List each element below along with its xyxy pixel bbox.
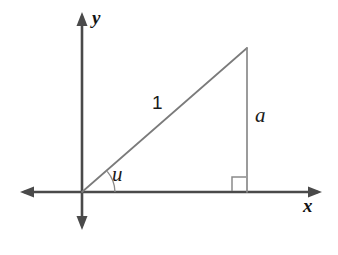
y-axis-label: y <box>92 8 100 27</box>
right-angle-marker <box>232 177 246 191</box>
y-axis-top-arrowhead <box>77 12 88 26</box>
geometry-figure: y x a u 1 <box>0 0 338 255</box>
y-axis-bottom-arrowhead <box>77 216 88 230</box>
hypotenuse-length-label: 1 <box>152 93 163 112</box>
opposite-side-label: a <box>255 105 266 126</box>
hypotenuse-line <box>82 48 247 192</box>
x-axis-label: x <box>303 196 313 215</box>
figure-canvas <box>0 0 338 255</box>
angle-label: u <box>112 164 123 185</box>
x-axis-left-arrowhead <box>20 187 34 198</box>
